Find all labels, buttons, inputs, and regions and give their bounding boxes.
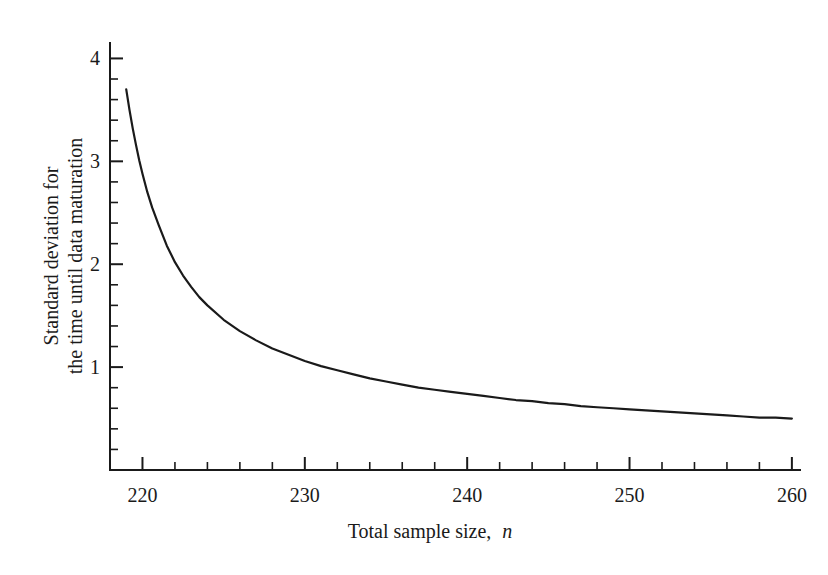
y-axis-title-line-1: Standard deviation for <box>40 166 62 345</box>
y-tick-label: 3 <box>90 150 100 172</box>
y-tick-label: 1 <box>90 356 100 378</box>
x-axis-title-label: Total sample size, n <box>348 520 513 543</box>
x-tick-label: 250 <box>615 484 645 506</box>
y-axis-title-line-2: the time until data maturation <box>64 138 86 375</box>
chart-background <box>0 0 828 575</box>
y-tick-label: 2 <box>90 253 100 275</box>
y-tick-label: 4 <box>90 47 100 69</box>
x-tick-label: 260 <box>777 484 807 506</box>
x-axis-title: Total sample size, n <box>348 520 513 543</box>
chart-figure: 1234 220230240250260 Total sample size, … <box>0 0 828 575</box>
x-axis-minor-ticks <box>110 462 759 470</box>
x-tick-label: 230 <box>290 484 320 506</box>
chart-plot-area: 1234 220230240250260 Total sample size, … <box>0 0 828 575</box>
x-tick-label: 220 <box>127 484 157 506</box>
x-tick-label: 240 <box>452 484 482 506</box>
